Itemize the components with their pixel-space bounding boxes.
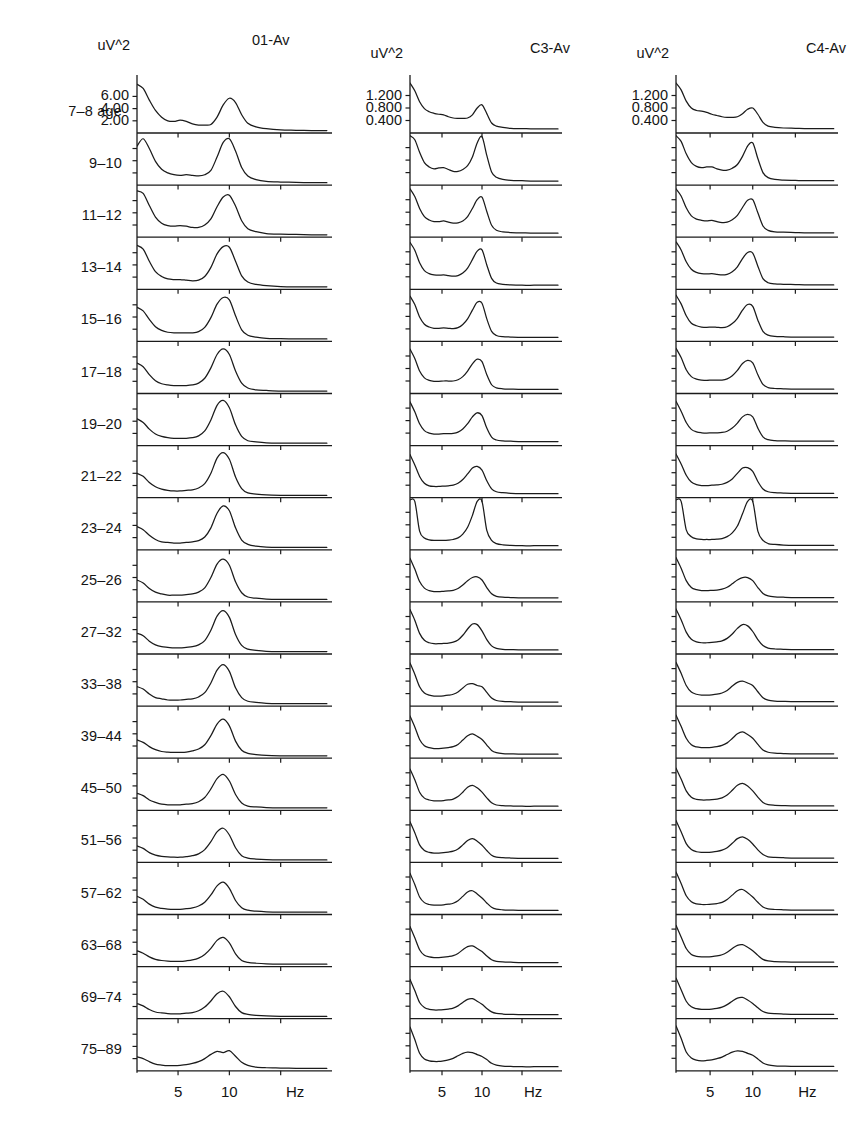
spectrum-trace [410,349,558,389]
spectrum-trace [410,296,558,337]
spectrum-trace [410,716,558,754]
spectrum-trace [676,1026,834,1067]
spectrum-trace [410,663,558,702]
spectrum-trace [676,499,834,546]
spectrum-trace [410,873,558,910]
spectrum-trace [137,138,327,182]
spectrum-trace [410,83,558,129]
spectrum-trace [137,719,327,756]
spectra-plot-area [0,0,861,1124]
spectrum-trace [137,559,327,599]
spectrum-trace [676,978,834,1014]
spectrum-trace [137,774,327,808]
spectrum-trace [410,499,558,546]
spectrum-trace [410,769,558,806]
spectrum-trace [410,402,558,442]
spectrum-trace [676,768,834,806]
eeg-spectra-figure: 01-AvuV^26.004.002.00510HzC3-AvuV^21.200… [0,0,861,1124]
spectrum-trace [676,295,834,337]
spectrum-trace [137,611,327,652]
spectrum-trace [137,665,327,704]
spectrum-trace [137,349,327,391]
spectrum-trace [676,872,834,910]
spectrum-trace [137,453,327,496]
spectrum-trace [137,245,327,286]
spectrum-trace [676,925,834,962]
spectrum-trace [410,1027,558,1067]
spectrum-trace [410,610,558,650]
spectrum-trace [676,821,834,859]
spectrum-trace [410,927,558,963]
spectrum-trace [676,401,834,441]
spectrum-trace [137,400,327,443]
spectrum-trace [676,454,834,493]
spectrum-trace [410,455,558,494]
spectrum-trace [676,83,834,129]
spectrum-trace [137,297,327,339]
spectrum-trace [676,662,834,701]
spectrum-trace [137,937,327,964]
spectrum-trace [137,1051,327,1069]
spectrum-trace [410,822,558,859]
spectrum-trace [137,991,327,1016]
spectrum-trace [410,136,558,181]
spectrum-trace [410,242,558,285]
spectrum-trace [676,348,834,389]
spectrum-trace [137,506,327,548]
spectrum-trace [676,136,834,181]
spectrum-trace [676,242,834,285]
spectrum-trace [137,191,327,235]
panel-c3-av [406,75,563,1075]
spectrum-trace [137,828,327,860]
spectrum-trace [137,84,327,130]
spectrum-trace [410,189,558,233]
spectrum-trace [676,609,834,650]
spectrum-trace [676,558,834,598]
spectrum-trace [410,558,558,598]
panel-c4-av [672,75,839,1075]
spectrum-trace [137,882,327,912]
panel-01-av [133,75,333,1075]
spectrum-trace [676,189,834,233]
spectrum-trace [676,715,834,754]
spectrum-trace [410,979,558,1014]
